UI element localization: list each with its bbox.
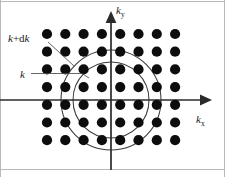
outer-ring-label: k+dk (8, 32, 31, 44)
lattice-dot (152, 29, 162, 39)
lattice-dot (115, 47, 125, 57)
lattice-dot (42, 64, 52, 74)
lattice-dot (170, 29, 180, 39)
lattice-dot (97, 82, 107, 92)
lattice-dot (97, 117, 107, 127)
lattice-dot (133, 64, 143, 74)
lattice-dot (97, 100, 107, 110)
lattice-dot (152, 100, 162, 110)
lattice-dot (152, 82, 162, 92)
lattice-dot (115, 29, 125, 39)
lattice-dot (42, 82, 52, 92)
lattice-dot (152, 47, 162, 57)
k-y-axis-label-sub: y (121, 10, 125, 19)
lattice-dot (97, 135, 107, 145)
lattice-dot (152, 117, 162, 127)
lattice-dot (79, 117, 89, 127)
lattice-dot (170, 82, 180, 92)
lattice-dot (115, 82, 125, 92)
lattice-dot (79, 47, 89, 57)
k-x-axis-label-sub: x (201, 119, 205, 128)
figure-canvas: k+dk k ky kx (0, 0, 225, 177)
lattice-dot (97, 47, 107, 57)
inner-ring-leader-elbow (82, 74, 89, 79)
lattice-dot (152, 64, 162, 74)
lattice-dot (133, 29, 143, 39)
outer-ring-label-k2: k (25, 32, 31, 44)
lattice-dot (97, 64, 107, 74)
lattice-dot (79, 64, 89, 74)
k-y-axis-label: ky (116, 4, 125, 19)
lattice-dot (79, 82, 89, 92)
k-x-axis-arrowhead (200, 95, 212, 106)
lattice-dot (115, 135, 125, 145)
lattice-dot (60, 64, 70, 74)
lattice-dot (60, 47, 70, 57)
lattice-dot (42, 29, 52, 39)
lattice-dot (60, 117, 70, 127)
lattice-dot (79, 29, 89, 39)
lattice-dot (97, 29, 107, 39)
lattice-dot (170, 64, 180, 74)
lattice-dot (133, 100, 143, 110)
lattice-dot (42, 47, 52, 57)
lattice-dot (115, 100, 125, 110)
lattice-dot (133, 47, 143, 57)
lattice-dot (170, 117, 180, 127)
inner-ring-label: k (20, 68, 26, 80)
lattice-dot (133, 117, 143, 127)
lattice-dot (115, 64, 125, 74)
lattice-dot (115, 117, 125, 127)
lattice-dot (42, 100, 52, 110)
lattice-dot (42, 117, 52, 127)
lattice-dot (133, 135, 143, 145)
lattice-dot (170, 100, 180, 110)
lattice-dot (79, 135, 89, 145)
k-x-axis-label: kx (196, 113, 205, 128)
lattice-dot (170, 47, 180, 57)
lattice-dot (133, 82, 143, 92)
k-space-lattice-figure: k+dk k ky kx (0, 0, 225, 177)
lattice-dot (79, 100, 89, 110)
k-y-axis-arrowhead (106, 11, 117, 23)
outer-ring-leader-line (48, 42, 74, 66)
lattice-dot (170, 135, 180, 145)
lattice-dot (60, 29, 70, 39)
lattice-dot (152, 135, 162, 145)
lattice-dot (60, 100, 70, 110)
lattice-dot (42, 135, 52, 145)
lattice-dot (60, 82, 70, 92)
lattice-dot (60, 135, 70, 145)
